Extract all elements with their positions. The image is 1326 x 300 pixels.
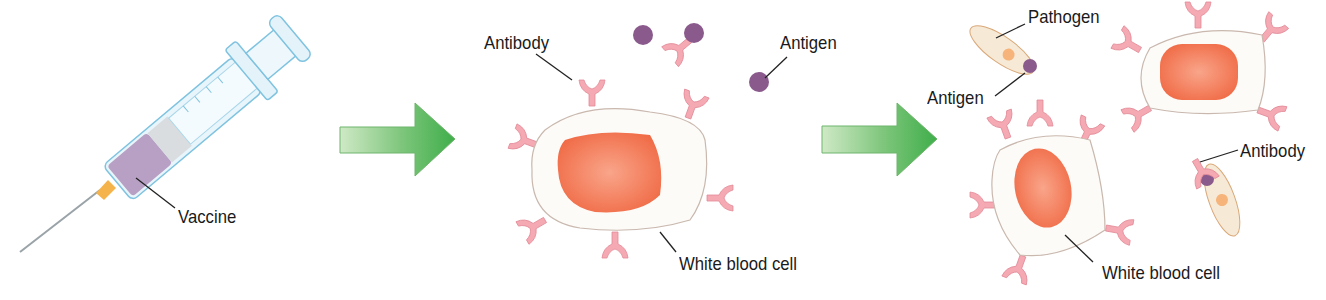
label-antibody-2: Antibody [1240, 140, 1305, 162]
arrow-step-1-to-2 [340, 103, 455, 176]
nucleus [558, 132, 662, 212]
label-pathogen: Pathogen [1028, 6, 1100, 28]
white-blood-cell-panel-2 [508, 23, 787, 258]
needle-hub [96, 180, 116, 200]
needle [20, 190, 100, 252]
label-white-blood-cell-2: White blood cell [1102, 262, 1220, 284]
label-antigen: Antigen [780, 32, 837, 54]
label-antigen-2: Antigen [927, 87, 984, 109]
antigen [633, 25, 653, 45]
antigen-bound [684, 23, 704, 43]
label-white-blood-cell: White blood cell [679, 253, 797, 275]
arrow-step-2-to-3 [822, 103, 937, 176]
antigen [1023, 59, 1037, 73]
label-antibody: Antibody [484, 32, 549, 54]
syringe [20, 9, 316, 252]
label-vaccine: Vaccine [178, 206, 236, 228]
antigen [749, 72, 769, 92]
